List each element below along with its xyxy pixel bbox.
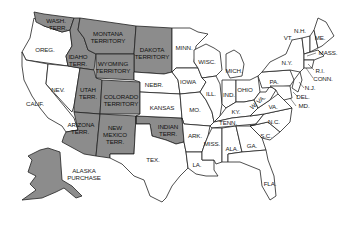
label-oreg: OREG.	[35, 46, 55, 53]
label-idaho-terr: IDAHOTERR.	[68, 53, 87, 67]
label-conn: CONN.	[313, 75, 333, 82]
label-wisc: WISC.	[198, 58, 216, 65]
label-pa: PA.	[269, 78, 279, 85]
label-nev: NEV.	[51, 86, 65, 93]
label-ohio: OHIO	[237, 86, 253, 93]
label-ind: IND.	[223, 91, 235, 98]
label-utah-terr: UTAHTERR.	[79, 86, 97, 100]
state-florida	[228, 150, 276, 200]
label-miss: MISS.	[204, 140, 221, 147]
label-la: LA.	[193, 161, 202, 168]
label-mass: MASS.	[319, 49, 338, 56]
label-iowa: IOWA	[180, 78, 197, 85]
label-sc: S.C.	[260, 132, 272, 139]
label-minn: MINN.	[175, 44, 192, 51]
label-nj: N.J.	[305, 84, 316, 91]
label-vt: VT.	[284, 34, 293, 41]
state-new-york	[262, 38, 304, 72]
label-colorado-terr: COLORADOTERRITORY	[104, 93, 139, 107]
label-nh: N.H.	[294, 27, 306, 34]
label-dakota-terr: DAKOTATERRITORY	[135, 46, 170, 60]
label-me: ME.	[315, 34, 326, 41]
label-ky: KY.	[232, 108, 241, 115]
leader-md	[290, 98, 296, 106]
label-fla: FLA.	[264, 180, 277, 187]
label-nc: N.C.	[268, 118, 280, 125]
state-maine	[314, 18, 334, 48]
label-md: MD.	[298, 102, 309, 109]
us-territories-map: WASH.TERR. IDAHOTERR. MONTANATERRITORY D…	[0, 0, 350, 227]
label-tex: TEX.	[146, 156, 160, 163]
label-mich: MICH.	[225, 67, 242, 74]
label-wash-terr: WASH.TERR.	[46, 17, 67, 31]
label-ny: N.Y.	[282, 59, 293, 66]
label-ri: R.I.	[315, 67, 325, 74]
label-ala: ALA.	[225, 145, 238, 152]
state-new-jersey	[292, 72, 302, 92]
label-kansas: KANSAS	[150, 104, 175, 111]
label-montana-terr: MONTANATERRITORY	[91, 30, 126, 44]
label-mo: MO.	[189, 106, 201, 113]
label-wyoming-terr: WYOMINGTERRITORY	[96, 60, 131, 74]
label-nebr: NEBR.	[145, 81, 164, 88]
state-connecticut	[304, 60, 314, 68]
label-indian-terr: INDIANTERR.	[158, 123, 178, 137]
label-alaska-purchase: ALASKAPURCHASE	[67, 167, 101, 181]
label-ga: GA.	[247, 142, 258, 149]
label-calif: CALIF.	[26, 100, 44, 107]
label-va: VA.	[268, 103, 278, 110]
leader-conn	[306, 68, 313, 78]
label-ark: ARK.	[188, 132, 202, 139]
label-ill: ILL.	[206, 90, 216, 97]
label-tenn: TENN.	[219, 119, 237, 126]
label-del: DEL.	[296, 93, 310, 100]
